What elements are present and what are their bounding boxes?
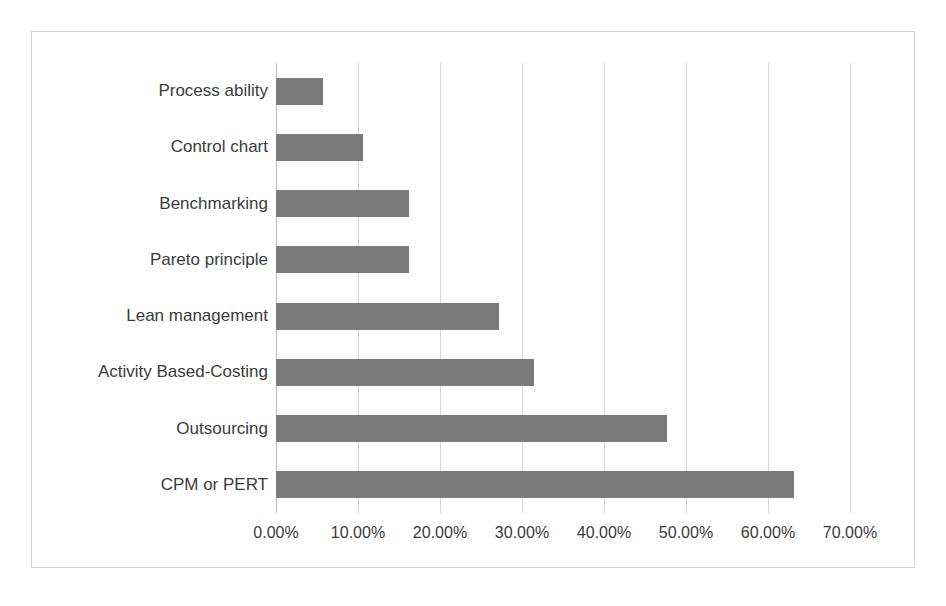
tick-label: 10.00% (331, 522, 385, 544)
gridline-vertical (850, 63, 851, 513)
bar-row (276, 457, 850, 513)
bar[interactable] (276, 246, 409, 273)
tick-label: 0.00% (253, 522, 298, 544)
bar[interactable] (276, 415, 667, 442)
tick-label: 60.00% (741, 522, 795, 544)
category-label: Pareto principle (48, 250, 268, 270)
bar[interactable] (276, 359, 534, 386)
bar-row (276, 119, 850, 175)
tick-label: 70.00% (823, 522, 877, 544)
category-label: Process ability (48, 81, 268, 101)
category-label: Outsourcing (48, 419, 268, 439)
category-label: Control chart (48, 137, 268, 157)
tick-label: 30.00% (495, 522, 549, 544)
bar-row (276, 401, 850, 457)
bar-row (276, 63, 850, 119)
tick-label: 40.00% (577, 522, 631, 544)
value-axis-tick-labels: 0.00%10.00%20.00%30.00%40.00%50.00%60.00… (276, 522, 850, 548)
bar-row (276, 288, 850, 344)
category-label: Lean management (48, 306, 268, 326)
tick-label: 20.00% (413, 522, 467, 544)
bar-row (276, 344, 850, 400)
bar[interactable] (276, 471, 794, 498)
category-label: Activity Based-Costing (48, 362, 268, 382)
chart-root: Process abilityControl chartBenchmarking… (0, 0, 946, 606)
category-label: Benchmarking (48, 194, 268, 214)
bar[interactable] (276, 78, 323, 105)
bar[interactable] (276, 190, 409, 217)
tick-label: 50.00% (659, 522, 713, 544)
category-axis-labels: Process abilityControl chartBenchmarking… (41, 63, 276, 513)
bar-row (276, 232, 850, 288)
chart-frame: Process abilityControl chartBenchmarking… (31, 31, 915, 568)
bar[interactable] (276, 134, 363, 161)
bar-series (276, 63, 850, 513)
category-label: CPM or PERT (48, 475, 268, 495)
bar[interactable] (276, 303, 499, 330)
bar-row (276, 176, 850, 232)
